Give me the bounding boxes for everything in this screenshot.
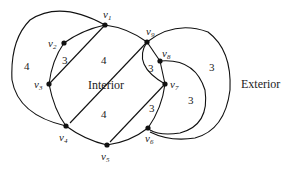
weight-face-v4-v5-v9: 4 [101,108,107,120]
vertex-label-v7: v7 [170,78,179,92]
planar-graph-diagram: v1 v2 v3 v4 v5 v6 v7 v8 v9 3 4 4 4 3 3 3… [0,0,297,169]
edge-v4-v5 [66,126,107,145]
vertex-label-v1: v1 [103,8,111,22]
vertex-v3 [46,81,51,86]
region-label-interior: Interior [88,78,124,92]
vertex-v5 [104,142,109,147]
edge-v1-v9 [105,25,147,42]
weight-face-v5-v6-v7: 3 [149,102,155,114]
edge-v5-v6 [107,128,148,145]
vertex-label-v4: v4 [59,131,68,145]
edge-v1-v2 [64,25,105,43]
vertex-v7 [162,81,167,86]
edge-v9-v6-arc [147,28,230,139]
vertex-v2 [61,40,66,45]
vertex-label-v5: v5 [101,150,110,164]
vertex-label-v3: v3 [34,78,43,92]
edge-v7-v8 [160,61,165,84]
weight-face-v1-v3-v4-v9: 4 [101,54,107,66]
edge-v3-v4 [49,84,66,126]
weight-face-v1-v2-v3: 3 [62,54,68,66]
weight-face-left-outer: 4 [24,60,30,72]
vertex-v8 [157,58,162,63]
vertex-label-v2: v2 [48,37,57,51]
vertex-label-v6: v6 [145,132,154,146]
edge-v8-v6-arc [150,61,206,134]
vertex-v6 [145,125,150,130]
vertex-v9 [144,39,149,44]
vertex-v4 [63,123,68,128]
edge-v8-v9 [147,42,160,61]
region-label-exterior: Exterior [241,77,280,91]
weight-face-v6-v7-v8-arc: 3 [188,94,194,106]
vertex-label-v8: v8 [162,47,171,61]
vertex-label-v9: v9 [146,25,155,39]
weight-face-v7-v8-v9: 3 [148,62,154,74]
vertex-v1 [102,22,107,27]
weight-face-v6-v8-v9-arc: 3 [209,61,215,73]
